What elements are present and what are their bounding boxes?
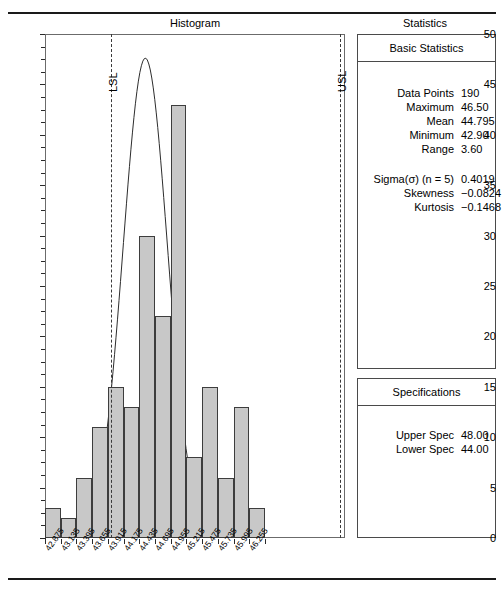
stat-label: Maximum <box>358 101 454 113</box>
y-axis-label: 15 <box>470 382 496 392</box>
stat-label: Mean <box>358 115 454 127</box>
stat-label: Kurtosis <box>358 201 454 213</box>
bottom-rule <box>8 578 496 580</box>
y-axis-label: 45 <box>470 79 496 89</box>
stat-row: Range3.60 <box>358 143 495 157</box>
stat-row: Maximum46.50 <box>358 101 495 115</box>
stat-row: Kurtosis−0.1468 <box>358 201 495 215</box>
spec-limit-line-usl <box>340 34 341 538</box>
y-axis-label: 35 <box>470 180 496 190</box>
stat-label: Range <box>358 143 454 155</box>
stat-label: Upper Spec <box>358 429 454 441</box>
basic-statistics-header: Basic Statistics <box>358 35 495 62</box>
stat-value: 3.60 <box>461 143 504 155</box>
stat-value: 46.50 <box>461 101 504 113</box>
stat-label: Minimum <box>358 129 454 141</box>
stat-value: 44.795 <box>461 115 504 127</box>
specifications-box: Specifications Upper Spec48.00Lower Spec… <box>357 378 496 538</box>
histogram-title: Histogram <box>45 15 345 31</box>
y-axis-label: 30 <box>470 231 496 241</box>
stat-row: Mean44.795 <box>358 115 495 129</box>
spec-limit-lines <box>45 34 345 538</box>
spec-limit-label-usl: USL <box>336 71 348 92</box>
stat-label: Data Points <box>358 87 454 99</box>
stat-row: Lower Spec44.00 <box>358 443 495 457</box>
stat-label: Sigma(σ) (n = 5) <box>358 173 454 185</box>
stat-value: −0.1468 <box>461 201 504 213</box>
y-axis-label: 25 <box>470 281 496 291</box>
y-axis-label: 10 <box>470 432 496 442</box>
y-axis-label: 40 <box>470 130 496 140</box>
stat-label: Lower Spec <box>358 443 454 455</box>
y-axis-label: 0 <box>470 533 496 543</box>
report-page: Histogram 42.87543.13543.39543.65543.915… <box>0 0 504 610</box>
stat-label: Skewness <box>358 187 454 199</box>
y-axis-label: 20 <box>470 331 496 341</box>
x-axis-tick <box>265 539 266 544</box>
spec-limit-label-lsl: LSL <box>107 72 119 92</box>
spec-limit-line-lsl <box>111 34 112 538</box>
y-axis-label: 50 <box>470 29 496 39</box>
y-axis-label: 5 <box>470 483 496 493</box>
top-rule <box>8 12 496 14</box>
stat-value: 44.00 <box>461 443 504 455</box>
